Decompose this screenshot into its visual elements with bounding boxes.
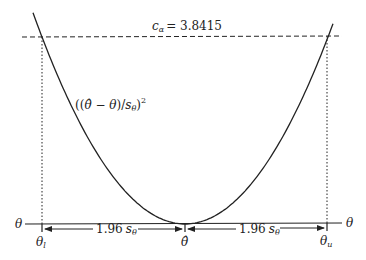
diagram-canvas: cα= 3.8415 ((θ̂ − θ)/sθ)2 θ θ 1.96sθ 1.9… <box>0 0 366 260</box>
threshold-value: = 3.8415 <box>166 19 222 33</box>
upper-bound-label: θu <box>320 234 332 249</box>
axis-label-right: θ <box>346 216 354 230</box>
parabola-curve <box>33 13 333 224</box>
left-interval-label: 1.96sθ <box>96 222 137 237</box>
threshold-label: cα= 3.8415 <box>152 19 222 34</box>
theta-axis <box>25 223 342 224</box>
center-label: θ̂ <box>181 235 189 249</box>
axis-label-left: θ <box>15 217 23 231</box>
threshold-subscript: α <box>159 25 165 34</box>
right-interval-label: 1.96sθ <box>239 222 280 237</box>
diagram-svg: cα= 3.8415 ((θ̂ − θ)/sθ)2 θ θ 1.96sθ 1.9… <box>0 0 366 260</box>
curve-label: ((θ̂ − θ)/sθ)2 <box>75 96 146 113</box>
lower-bound-label: θl <box>36 235 46 250</box>
threshold-line <box>22 36 342 37</box>
